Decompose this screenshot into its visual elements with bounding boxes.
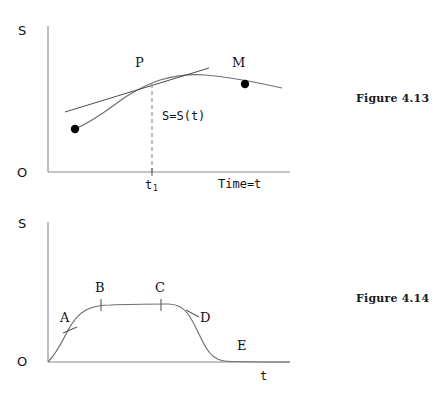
tick-mark-a — [63, 327, 77, 333]
figure-sheet: S O P M S=S(t) t 1 Time=t — [0, 0, 439, 394]
point-e-label: E — [237, 338, 247, 353]
point-p-label: P — [135, 55, 144, 70]
origin-label: O — [17, 165, 27, 180]
figure-4-14-caption: Figure 4.14 — [356, 292, 429, 305]
figure-4-14-svg: S O A B C D E t — [0, 200, 320, 394]
point-a-label: A — [59, 310, 70, 325]
x-axis-tick-label-t1: t 1 — [145, 178, 158, 193]
y-axis-label: S — [18, 216, 26, 231]
point-c-label: C — [155, 280, 165, 295]
figure-4-13-caption: Figure 4.13 — [356, 92, 429, 105]
figure-4-13: S O P M S=S(t) t 1 Time=t — [0, 0, 320, 200]
figure-4-13-svg: S O P M S=S(t) t 1 Time=t — [0, 0, 320, 200]
curve-equation-label: S=S(t) — [162, 109, 205, 123]
x-axis-tick-label-subscript: 1 — [153, 184, 158, 193]
curve-start-dot — [71, 125, 79, 133]
x-axis-label: t — [260, 369, 267, 383]
point-m-label: M — [232, 55, 245, 70]
x-axis-label: Time=t — [218, 177, 261, 191]
point-m-dot — [241, 80, 249, 88]
origin-label: O — [17, 354, 27, 369]
tangent-line-at-p — [65, 68, 209, 112]
figure-4-14: S O A B C D E t — [0, 200, 320, 394]
point-b-label: B — [95, 280, 105, 295]
point-d-label: D — [200, 310, 210, 325]
x-axis-tick-label-base: t — [145, 178, 152, 192]
y-axis-label: S — [18, 23, 26, 38]
curve-abcde — [48, 304, 290, 362]
